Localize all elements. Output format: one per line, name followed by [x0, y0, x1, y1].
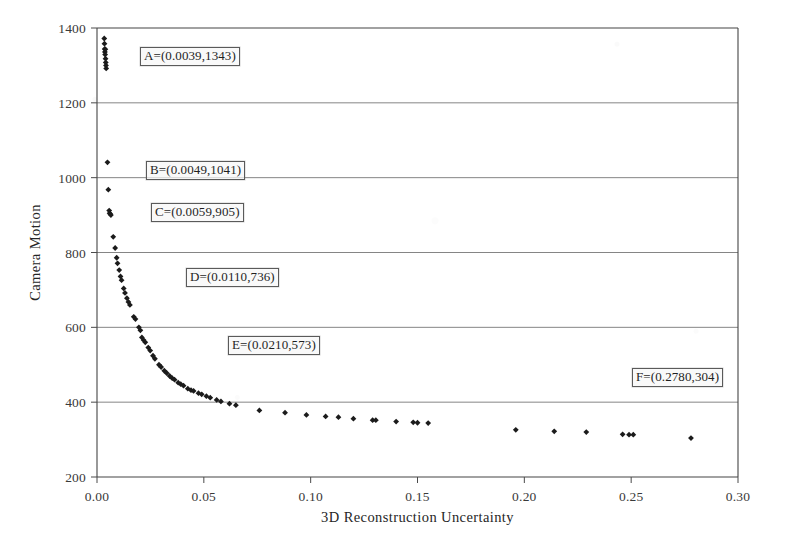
ytick-label-200: 200: [65, 470, 86, 485]
data-point: [351, 416, 357, 422]
data-point: [116, 267, 122, 273]
data-point: [112, 245, 118, 251]
ytick-label-1200: 1200: [58, 96, 86, 111]
data-point: [227, 401, 233, 407]
annotation-d: D=(0.0110,736): [186, 268, 279, 287]
data-point: [513, 427, 519, 433]
data-point: [620, 431, 626, 437]
annotation-e: E=(0.0210,573): [228, 336, 320, 355]
ytick-label-1000: 1000: [58, 171, 86, 186]
annotation-c: C=(0.0059,905): [151, 203, 244, 222]
annotation-b: B=(0.0049,1041): [146, 161, 245, 180]
scatter-chart: 0.000.050.100.150.200.250.30 20040060080…: [0, 0, 791, 552]
xtick-label-0.15: 0.15: [405, 489, 429, 504]
ytick-label-400: 400: [65, 395, 86, 410]
data-point: [115, 260, 121, 266]
data-point: [551, 428, 557, 434]
data-points: [101, 36, 694, 441]
xtick-label-0.30: 0.30: [726, 489, 750, 504]
plot-canvas: 0.000.050.100.150.200.250.30 20040060080…: [0, 0, 791, 552]
data-point: [336, 414, 342, 420]
data-point: [256, 407, 262, 413]
data-point: [583, 429, 589, 435]
y-axis-title: Camera Motion: [27, 204, 43, 301]
data-point: [102, 41, 108, 47]
data-point: [282, 410, 288, 416]
xtick-label-0.25: 0.25: [619, 489, 643, 504]
data-point: [114, 255, 120, 261]
gridlines: [97, 103, 738, 402]
data-point: [233, 402, 239, 408]
y-axis-ticks: [91, 28, 97, 477]
data-point: [105, 159, 111, 165]
annotation-f: F=(0.2780,304): [632, 368, 723, 387]
ytick-label-600: 600: [65, 320, 86, 335]
xtick-label-0.20: 0.20: [512, 489, 536, 504]
xtick-label-0.00: 0.00: [85, 489, 109, 504]
data-point: [415, 420, 421, 426]
data-point: [630, 432, 636, 438]
data-point: [110, 234, 116, 240]
data-point: [105, 187, 111, 193]
data-point: [101, 36, 107, 42]
ytick-label-1400: 1400: [58, 21, 86, 36]
x-axis-title: 3D Reconstruction Uncertainty: [321, 509, 514, 525]
data-point: [303, 412, 309, 418]
x-axis-ticks: [97, 477, 738, 483]
data-point: [122, 290, 128, 296]
data-point: [393, 419, 399, 425]
data-point: [121, 286, 127, 292]
data-point: [323, 413, 329, 419]
xtick-label-0.05: 0.05: [192, 489, 216, 504]
annotation-a: A=(0.0039,1343): [140, 47, 240, 66]
ytick-label-800: 800: [65, 246, 86, 261]
data-point: [373, 417, 379, 423]
data-point: [425, 420, 431, 426]
data-point: [688, 435, 694, 441]
x-axis-tick-labels: 0.000.050.100.150.200.250.30: [85, 489, 750, 504]
y-axis-tick-labels: 200400600800100012001400: [58, 21, 86, 485]
xtick-label-0.10: 0.10: [298, 489, 322, 504]
